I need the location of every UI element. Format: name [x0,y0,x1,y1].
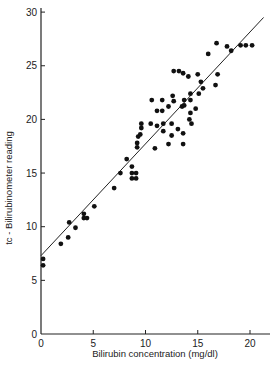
data-point [166,104,171,109]
data-point [188,91,193,96]
x-tick-label: 20 [244,338,256,349]
data-point [196,91,201,96]
y-ticks: 051015202530 [26,7,45,340]
y-axis-label: tc - Bilirubinometer reading [3,131,14,245]
x-axis-label: Bilirubin concentration (mg/dl) [92,348,218,359]
data-point [58,241,63,246]
data-point [160,108,165,113]
data-point [130,176,135,181]
data-point [193,106,198,111]
data-point [189,121,194,126]
data-point [182,103,187,108]
data-point [225,44,230,49]
data-point [188,98,193,103]
data-point [124,157,129,162]
y-tick-label: 5 [31,275,37,286]
data-point [188,111,193,116]
data-point [135,141,140,146]
data-point [169,121,174,126]
regression-line [41,17,264,255]
data-point [139,121,144,126]
data-point [160,98,165,103]
data-point [135,145,140,150]
data-point [161,121,166,126]
data-point [134,171,139,176]
scatter-chart: 051015202530 05101520 Bilirubin concentr… [0,0,273,366]
y-tick-label: 0 [31,329,37,340]
x-ticks: 05101520 [38,330,256,349]
data-point [66,235,71,240]
data-point [201,86,206,91]
data-point [166,142,171,147]
data-point [118,171,123,176]
data-point [130,164,135,169]
y-tick-label: 20 [26,114,38,125]
y-tick-label: 30 [26,7,38,18]
axes: 051015202530 05101520 [26,7,270,349]
y-tick-label: 10 [26,221,38,232]
data-point [139,126,144,131]
data-point [67,220,72,225]
data-point [198,79,203,84]
data-point [138,132,143,137]
data-point [229,48,234,53]
data-point [181,71,186,76]
y-tick-label: 15 [26,168,38,179]
y-tick-label: 25 [26,60,38,71]
data-point [238,43,243,48]
data-point [175,127,180,132]
data-points [41,41,255,268]
data-point [214,41,219,46]
data-point [250,43,255,48]
data-point [161,129,166,134]
data-point [206,52,211,57]
data-point [170,93,175,98]
x-tick-label: 0 [38,338,44,349]
data-point [169,133,174,138]
data-point [81,211,86,216]
data-point [243,43,248,48]
data-point [181,131,186,136]
data-point [195,72,200,77]
data-point [148,121,153,126]
data-point [187,117,192,122]
data-point [171,69,176,74]
data-point [73,225,78,230]
data-point [155,108,160,113]
data-point [186,74,191,79]
data-point [134,176,139,181]
data-point [149,98,154,103]
data-point [153,146,158,151]
data-point [182,98,187,103]
data-point [181,142,186,147]
data-point [112,186,117,191]
data-point [171,99,176,104]
data-point [41,263,46,268]
data-point [41,256,46,261]
data-point [213,83,218,88]
data-point [177,69,182,74]
data-point [85,216,90,221]
data-point [155,123,160,128]
data-point [215,72,220,77]
data-point [130,171,135,176]
data-point [92,204,97,209]
